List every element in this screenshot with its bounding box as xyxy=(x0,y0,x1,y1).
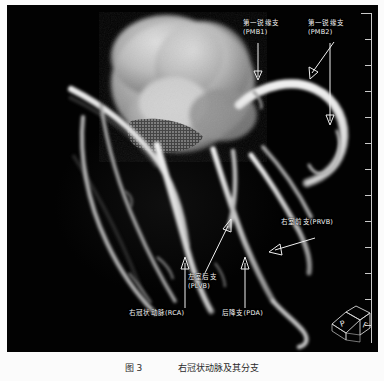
arrow-pmb2-long xyxy=(326,43,334,125)
ruler-tick xyxy=(365,299,372,300)
annotation-pmb1-line2: (PMB1) xyxy=(243,28,279,37)
coronary-volume-render xyxy=(7,5,378,352)
annotation-pmb2-line1: 第一锐缘支 xyxy=(308,19,344,27)
annotation-prvb-line1: 右室前支(PRVB) xyxy=(281,218,333,226)
ruler-spine xyxy=(371,13,372,343)
ruler-tick xyxy=(365,143,372,144)
arrow-plvb xyxy=(203,219,231,277)
ruler-tick xyxy=(365,195,372,196)
figure-caption: 图 3 右冠状动脉及其分支 xyxy=(0,362,384,374)
scale-ruler xyxy=(358,13,372,343)
figure-screenshot: 第一锐缘支 (PMB1) 第一锐缘支 (PMB2) 右室前支(PRVB) 左室后… xyxy=(0,0,384,381)
annotation-plvb: 左室后支 (PLVB) xyxy=(188,273,217,290)
ruler-tick xyxy=(365,91,372,92)
annotation-pda-line1: 后降支(PDA) xyxy=(222,309,263,317)
annotation-rca: 右冠状动脉(RCA) xyxy=(129,309,184,318)
ruler-tick xyxy=(365,273,372,274)
ruler-tick xyxy=(365,117,372,118)
orientation-cube[interactable]: P F xyxy=(328,304,372,346)
annotation-pmb1: 第一锐缘支 (PMB1) xyxy=(243,19,279,36)
annotation-pmb1-line1: 第一锐缘支 xyxy=(243,19,279,27)
ruler-tick xyxy=(365,247,372,248)
ruler-tick xyxy=(361,13,372,14)
ruler-tick xyxy=(365,221,372,222)
annotation-pda: 后降支(PDA) xyxy=(222,309,263,318)
ruler-tick xyxy=(365,169,372,170)
arrow-pmb1 xyxy=(254,43,262,80)
annotation-rca-line1: 右冠状动脉(RCA) xyxy=(129,309,184,317)
ruler-tick xyxy=(365,39,372,40)
annotation-plvb-line2: (PLVB) xyxy=(188,282,217,291)
orientation-cube-label-p: P xyxy=(339,319,347,329)
arrow-pda xyxy=(241,257,249,308)
annotation-pmb2: 第一锐缘支 (PMB2) xyxy=(308,19,344,36)
annotation-prvb: 右室前支(PRVB) xyxy=(281,218,333,227)
annotation-pmb2-line2: (PMB2) xyxy=(308,28,344,37)
volume-rendering-viewport: 第一锐缘支 (PMB1) 第一锐缘支 (PMB2) 右室前支(PRVB) 左室后… xyxy=(7,5,378,352)
ruler-tick xyxy=(365,65,372,66)
annotation-plvb-line1: 左室后支 xyxy=(188,273,217,281)
